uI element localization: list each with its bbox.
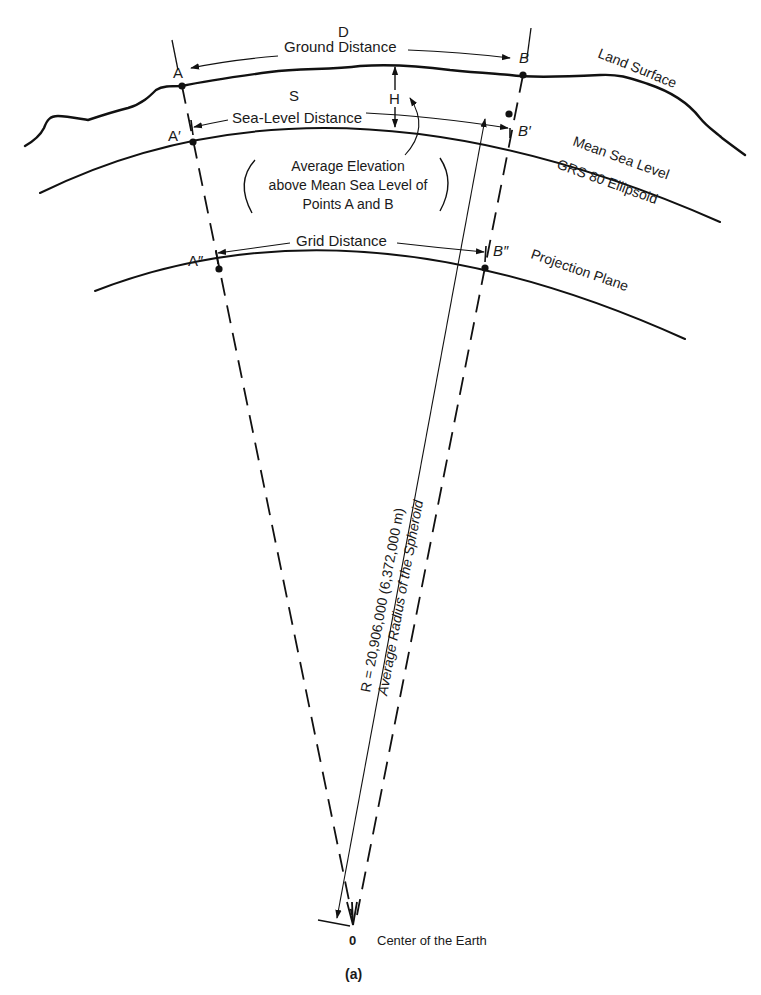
ground-distance-arrow-right xyxy=(408,50,510,58)
label-A: A xyxy=(173,64,183,81)
label-grid-distance: Grid Distance xyxy=(296,232,387,249)
figure-caption: (a) xyxy=(345,966,362,982)
label-ground-distance: Ground Distance xyxy=(284,38,397,55)
label-average-elevation-3: Points A and B xyxy=(302,196,393,212)
elevation-pointer-arrow xyxy=(405,98,419,155)
geodetic-distance-diagram: D Ground Distance A B Land Surface S Sea… xyxy=(0,0,761,995)
point-B-prime xyxy=(505,110,512,117)
point-B-double-prime xyxy=(481,264,488,271)
grid-arrow-right xyxy=(397,243,484,252)
ground-distance-arrow-left xyxy=(191,56,278,68)
sea-level-tick-left xyxy=(191,120,193,135)
origin-arrowhead-left xyxy=(347,902,353,925)
label-B-prime: B′ xyxy=(518,122,532,139)
label-sea-level-distance: Sea-Level Distance xyxy=(232,109,362,126)
point-A-prime xyxy=(189,138,196,145)
label-B: B xyxy=(519,49,529,66)
grid-tick-left xyxy=(216,250,218,264)
label-average-elevation-1: Average Elevation xyxy=(291,158,404,174)
land-surface-line xyxy=(25,65,745,155)
point-A xyxy=(178,82,185,89)
point-A-double-prime xyxy=(215,265,222,272)
point-B xyxy=(519,71,526,78)
label-center-of-earth: Center of the Earth xyxy=(377,933,487,948)
label-H: H xyxy=(389,90,400,107)
label-land-surface: Land Surface xyxy=(596,45,679,91)
label-S: S xyxy=(289,87,299,104)
label-B-double-prime: B″ xyxy=(493,242,509,259)
left-parenthesis xyxy=(244,160,255,213)
label-A-double-prime: A″ xyxy=(188,252,204,269)
label-average-elevation-2: above Mean Sea Level of xyxy=(269,177,428,193)
sea-level-arrow-left xyxy=(194,120,228,127)
sea-level-arrow-right xyxy=(366,113,508,128)
label-origin: 0 xyxy=(349,933,356,948)
radius-base-tick xyxy=(318,920,350,926)
label-A-prime: A′ xyxy=(168,127,181,144)
grid-tick-right xyxy=(485,246,486,262)
right-parenthesis xyxy=(440,158,448,211)
projection-plane-curve xyxy=(95,250,685,339)
